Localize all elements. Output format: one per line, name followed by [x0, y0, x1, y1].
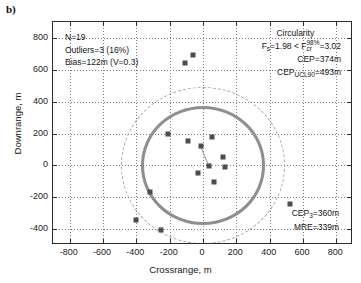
y-tick [347, 102, 351, 103]
x-axis-label: Crossrange, m [0, 264, 361, 275]
cep-ucl-prefix: CEP [277, 67, 294, 77]
data-point [166, 131, 171, 136]
x-tick [136, 239, 137, 243]
x-tick [103, 239, 104, 243]
x-tick [270, 22, 271, 26]
f-crit-scripts: 98%cr [306, 40, 319, 52]
data-point [134, 218, 139, 223]
x-tick [70, 239, 71, 243]
data-point [182, 61, 187, 66]
y-tick-label: 800 [18, 32, 48, 42]
x-tick-label: -400 [126, 247, 144, 257]
cep3-suffix: =360m [313, 208, 339, 218]
x-tick [103, 22, 104, 26]
x-tick-label: 800 [328, 247, 343, 257]
f-middle: =1.98 < F [270, 41, 306, 51]
data-point [211, 180, 216, 185]
data-point [222, 164, 227, 169]
x-tick-label: 600 [294, 247, 309, 257]
x-tick [336, 22, 337, 26]
y-tick-label: -400 [18, 223, 48, 233]
y-tick-label: 200 [18, 128, 48, 138]
x-tick [303, 22, 304, 26]
panel-label: b) [6, 3, 16, 15]
cep-ucl90-value: CEPUCL90=493m [262, 66, 341, 80]
y-tick-label: 400 [18, 96, 48, 106]
x-tick [270, 239, 271, 243]
y-tick [53, 134, 57, 135]
x-tick-label: -200 [160, 247, 178, 257]
data-point [210, 135, 215, 140]
y-tick [53, 38, 57, 39]
x-tick [70, 22, 71, 26]
y-axis-label: Downrange, m [12, 69, 23, 179]
stat-bias: Bias=122m (V=0.3) [65, 56, 138, 69]
y-tick [347, 38, 351, 39]
y-tick [53, 229, 57, 230]
stat-outliers: Outliers=3 (16%) [65, 44, 138, 57]
cep3-value: CEP3=360m [292, 207, 339, 221]
f-suffix: =3.02 [319, 41, 341, 51]
y-tick [53, 70, 57, 71]
stats-annotation: N=19 Outliers=3 (16%) Bias=122m (V=0.3) [65, 31, 138, 69]
mre-value: MRE=339m [292, 221, 339, 234]
y-tick [347, 70, 351, 71]
cep-ucl-subscript: UCL90 [295, 71, 315, 78]
y-tick-label: 600 [18, 64, 48, 74]
cep3-prefix: CEP [292, 208, 309, 218]
data-point [198, 144, 203, 149]
x-tick [170, 22, 171, 26]
data-point [147, 189, 152, 194]
cep-ucl-suffix: =493m [315, 67, 341, 77]
x-tick-label: -800 [60, 247, 78, 257]
y-tick [347, 229, 351, 230]
bottom-annotation: CEP3=360m MRE=339m [292, 207, 339, 233]
y-tick [53, 165, 57, 166]
f-crit-subscript: cr [306, 46, 319, 52]
x-tick [236, 239, 237, 243]
cep3-subscript: 3 [309, 212, 313, 219]
data-point [191, 53, 196, 58]
y-tick [347, 197, 351, 198]
x-tick-label: 200 [228, 247, 243, 257]
y-tick-label: -200 [18, 191, 48, 201]
x-tick [170, 239, 171, 243]
y-tick-label: 0 [18, 159, 48, 169]
data-point [186, 138, 191, 143]
x-tick [303, 239, 304, 243]
y-tick [347, 134, 351, 135]
data-point [221, 154, 226, 159]
x-tick-label: 400 [261, 247, 276, 257]
x-tick-label: 0 [199, 247, 204, 257]
f-subscript: s [267, 45, 270, 52]
data-point [158, 227, 163, 232]
cep-circle [141, 106, 266, 225]
data-point [196, 171, 201, 176]
y-tick [53, 197, 57, 198]
x-tick [136, 22, 137, 26]
x-tick-label: -600 [93, 247, 111, 257]
data-point [206, 164, 211, 169]
circularity-annotation: Circularity Fs=1.98 < F98%cr=3.02 CEP=37… [262, 27, 341, 79]
circularity-title: Circularity [262, 27, 341, 40]
x-tick [203, 22, 204, 26]
cep-value: CEP=374m [262, 53, 341, 66]
x-tick [236, 22, 237, 26]
circularity-f-test: Fs=1.98 < F98%cr=3.02 [262, 40, 341, 54]
stat-n: N=19 [65, 31, 138, 44]
plot-area: N=19 Outliers=3 (16%) Bias=122m (V=0.3) … [52, 21, 352, 244]
y-tick [347, 165, 351, 166]
y-tick [53, 102, 57, 103]
x-tick [336, 239, 337, 243]
